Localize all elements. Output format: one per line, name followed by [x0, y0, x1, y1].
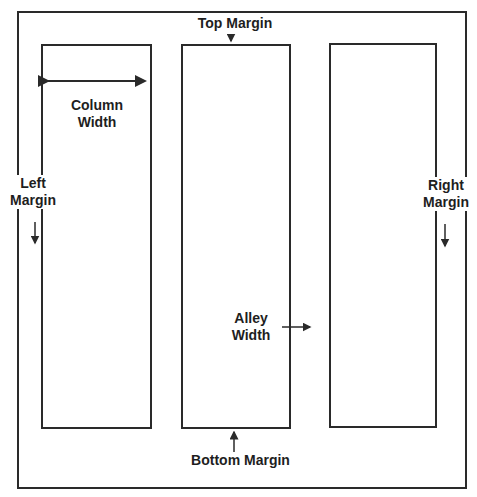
alley-width-label: Alley Width: [226, 310, 276, 344]
left-margin-label: Left Margin: [5, 175, 61, 209]
bottom-margin-label: Bottom Margin: [183, 452, 298, 469]
dimension-arrows: [0, 0, 477, 497]
top-margin-label: Top Margin: [195, 15, 275, 32]
right-margin-label: Right Margin: [418, 177, 474, 211]
column-width-label: Column Width: [62, 97, 132, 131]
